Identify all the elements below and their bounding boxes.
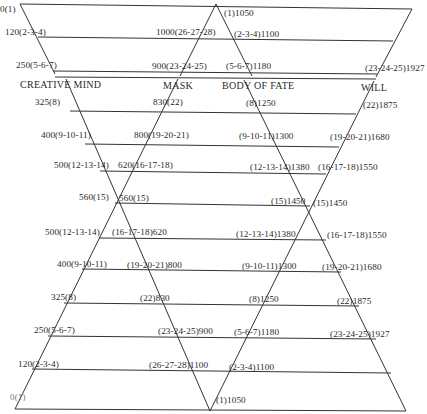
row-label: (22)830 [140,293,170,303]
row-label: 560(15) [79,192,109,202]
row-400-top [85,144,339,147]
row-250-bottom [48,336,376,339]
row-label: (26-27-28)1100 [149,360,208,370]
row-label: 250(5-6-7) [34,325,75,335]
row-120-bottom [32,369,391,373]
row-label: (2-3-4)1100 [229,362,274,372]
row-label: 400(9-10-11) [41,130,91,140]
row-label: 800(19-20-21) [134,130,189,140]
header-mask: MASK [163,80,193,91]
row-label: (15)1450 [271,196,305,206]
row-label: (22)1875 [363,100,397,110]
row-label: (9-10-11)1300 [242,261,297,271]
row-label: (12-13-14)1380 [250,162,310,172]
row-325-top [70,111,356,114]
row-label: (19-20-21)1680 [322,262,382,272]
row-label: (16-17-18)1550 [318,162,378,172]
row-label: (5-6-7)1180 [234,327,279,337]
row-label: 560(15) [119,193,149,203]
label-top-250: 250(5-6-7) [16,60,57,70]
top-row-120 [38,37,393,41]
row-label: (16-17-18)620 [112,227,167,237]
row-label: (16-17-18)1550 [327,230,387,240]
label-top-900: 900(23-24-25) [152,61,207,71]
row-label: 120(2-3-4) [18,359,59,369]
row-label: 325(8) [51,292,76,302]
row-label: (12-13-14)1380 [236,229,296,239]
label-top-1000: 1000(26-27-28) [156,27,216,37]
row-400-bottom [82,269,341,272]
diagram-lines [0,0,427,414]
label-top-1050: (1)1050 [224,8,254,18]
row-label: (15)1450 [313,198,347,208]
row-label: (19-20-21)800 [127,260,182,270]
row-label: (8)1250 [246,98,276,108]
label-top-1927: (23-24-25)1927 [365,63,425,73]
row-325-bottom [64,303,359,306]
label-top-1100: (2-3-4)1100 [234,29,279,39]
row-label: 0(1) [10,392,26,402]
row-label: (1)1050 [216,395,246,405]
row-label: (23-24-25)900 [158,326,213,336]
row-label: (23-24-25)1927 [330,329,390,339]
top-row-250 [53,71,377,74]
label-top-1180: (5-6-7)1180 [226,61,271,71]
row-label: 500(12-13-14) [54,160,109,170]
row-label: 500(12-13-14) [45,227,100,237]
row-label: (9-10-11)1300 [239,131,294,141]
label-top-120: 120(2-3-4) [5,27,46,37]
header-creative-mind: CREATIVE MIND [20,79,101,90]
row-label: 830(22) [153,97,183,107]
row-label: 400(9-10-11) [57,259,107,269]
header-body-of-fate: BODY OF FATE [222,80,295,91]
row-label: (8)1250 [249,294,279,304]
row-label: 325(8) [35,97,60,107]
row-label: (22)1875 [337,296,371,306]
row-label: (19-20-21)1680 [330,132,390,142]
row-label: 620(16-17-18) [118,160,173,170]
header-will: WILL [361,82,387,93]
separator-line [55,77,376,79]
label-top-0: 0(1) [0,4,16,14]
